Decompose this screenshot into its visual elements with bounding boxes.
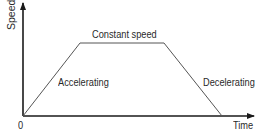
constant-speed-label: Constant speed xyxy=(92,29,157,40)
speed-time-diagram: Speed 0 Time Constant speed Accelerating… xyxy=(0,0,269,138)
y-axis-label: Speed xyxy=(6,0,17,30)
speed-profile-line xyxy=(23,43,222,116)
diagram-canvas xyxy=(0,0,269,138)
x-axis-label: Time xyxy=(233,120,253,131)
accelerating-label: Accelerating xyxy=(58,77,109,88)
origin-label: 0 xyxy=(18,120,23,131)
decelerating-label: Decelerating xyxy=(203,77,255,88)
